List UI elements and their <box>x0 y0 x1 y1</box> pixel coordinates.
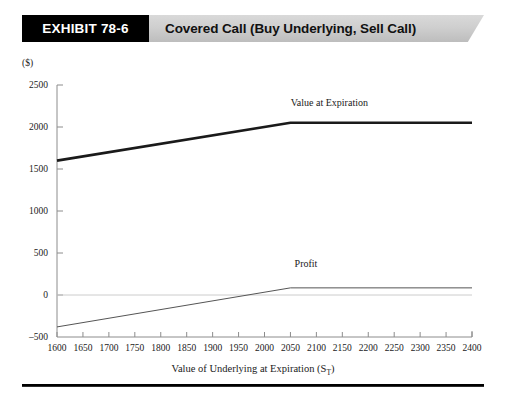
x-axis-tick-labels: 1600165017001750180018501900195020002050… <box>48 343 482 353</box>
x-tick-label: 2150 <box>333 343 352 353</box>
x-axis-title: Value of Underlying at Expiration (ST) <box>172 363 335 377</box>
x-tick-label: 2050 <box>281 343 300 353</box>
x-tick-label: 1700 <box>99 343 118 353</box>
payoff-diagram: –50005001000150020002500 160016501700175… <box>0 52 506 382</box>
y-tick-label: 2500 <box>29 80 48 90</box>
series-annotation-profit: Profit <box>295 258 318 269</box>
y-axis-ticks <box>57 127 63 295</box>
x-tick-label: 2350 <box>437 343 456 353</box>
x-tick-label: 1750 <box>125 343 144 353</box>
x-tick-label: 1950 <box>229 343 248 353</box>
series-annotation-value-at-expiration: Value at Expiration <box>291 97 368 108</box>
y-tick-label: 500 <box>34 248 49 258</box>
x-tick-label: 2400 <box>463 343 482 353</box>
exhibit-header: EXHIBIT 78-6 Covered Call (Buy Underlyin… <box>22 15 484 42</box>
y-tick-label: 1500 <box>29 164 48 174</box>
x-tick-label: 2100 <box>307 343 326 353</box>
x-tick-label: 2300 <box>411 343 430 353</box>
bottom-rule-divider <box>22 384 484 387</box>
y-tick-label: –500 <box>28 332 48 342</box>
x-tick-label: 2250 <box>385 343 404 353</box>
exhibit-title: Covered Call (Buy Underlying, Sell Call) <box>165 15 416 42</box>
x-tick-label: 2000 <box>255 343 274 353</box>
y-tick-label: 0 <box>43 290 48 300</box>
x-tick-label: 1600 <box>48 343 67 353</box>
x-tick-label: 1650 <box>73 343 92 353</box>
y-tick-label: 2000 <box>29 122 48 132</box>
x-tick-label: 2200 <box>359 343 378 353</box>
y-axis-tick-labels: –50005001000150020002500 <box>28 80 48 342</box>
x-tick-label: 1850 <box>177 343 196 353</box>
x-tick-label: 1800 <box>151 343 170 353</box>
chart-figure: –50005001000150020002500 160016501700175… <box>0 52 506 382</box>
y-axis-unit-label: ($) <box>22 58 33 69</box>
series-line-value-at-expiration <box>57 123 472 161</box>
series-line-profit <box>57 288 472 327</box>
x-tick-label: 1900 <box>203 343 222 353</box>
exhibit-number-badge: EXHIBIT 78-6 <box>22 15 149 42</box>
y-tick-label: 1000 <box>29 206 48 216</box>
x-axis-ticks <box>57 332 472 337</box>
